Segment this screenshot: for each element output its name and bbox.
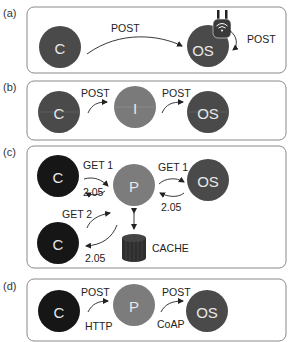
- client-node-label: C: [54, 304, 65, 321]
- panel-label: (c): [3, 146, 16, 158]
- edge-label: GET 2: [62, 208, 92, 220]
- panel-label: (a): [3, 7, 16, 19]
- edge-label: POST: [162, 286, 191, 298]
- edge-label: 2.05: [85, 252, 106, 264]
- panel-c: (c) C GET 1 2.05 P GET 1 2.05 OS GET 2 2…: [3, 146, 286, 268]
- protocol-label: HTTP: [85, 320, 112, 332]
- edge-label: POST: [81, 286, 110, 298]
- panel-label: (b): [3, 81, 16, 93]
- panel-b: (b) C POST I POST OS: [3, 81, 286, 140]
- edge-label: 2.05: [161, 201, 182, 213]
- edge-label: GET 1: [158, 161, 188, 173]
- client-node-label: C: [55, 40, 66, 57]
- origin-server-label: OS: [197, 173, 219, 190]
- client-node-label: C: [53, 236, 64, 253]
- panel-d: (d) C POST HTTP P POST CoAP OS: [3, 279, 286, 341]
- origin-server-label: OS: [196, 304, 218, 321]
- cache-label: CACHE: [152, 242, 189, 254]
- edge-label: GET 1: [83, 159, 113, 171]
- client-node-label: C: [54, 105, 65, 122]
- intermediary-node-label: I: [133, 100, 137, 117]
- edge-label: 2.05: [83, 186, 104, 198]
- panel-a: (a) C POST OS POST: [3, 7, 286, 73]
- edge-label: POST: [81, 87, 110, 99]
- edge-label: POST: [162, 87, 191, 99]
- cache-icon: [122, 234, 146, 262]
- panel-label: (d): [3, 280, 16, 292]
- proxy-node-label: P: [129, 178, 139, 195]
- protocol-label: CoAP: [157, 318, 184, 330]
- edge-label: POST: [111, 22, 140, 34]
- proxy-node-label: P: [129, 298, 139, 315]
- client-node-label: C: [53, 169, 64, 186]
- edge-label: POST: [247, 33, 276, 45]
- coap-proxy-diagram: (a) C POST OS POST (b) C POST I: [0, 0, 299, 342]
- origin-server-label: OS: [197, 105, 219, 122]
- origin-server-label: OS: [192, 42, 214, 59]
